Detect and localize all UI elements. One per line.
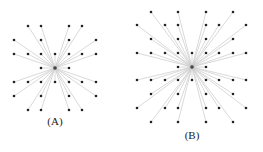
- star-graph-diagram: (A)(B): [0, 0, 263, 152]
- node: [81, 53, 84, 56]
- node: [40, 81, 43, 84]
- node: [150, 121, 153, 124]
- node: [95, 39, 98, 42]
- node: [95, 53, 98, 56]
- node: [205, 24, 208, 27]
- node: [81, 109, 84, 112]
- figure-a-caption: (A): [47, 115, 63, 128]
- node: [218, 24, 221, 27]
- node: [68, 53, 71, 56]
- node: [232, 11, 235, 14]
- node: [150, 38, 153, 41]
- node: [205, 66, 208, 69]
- node: [191, 79, 194, 82]
- node: [81, 25, 84, 28]
- node: [136, 52, 139, 55]
- node: [68, 39, 71, 42]
- node: [81, 81, 84, 84]
- node: [245, 52, 248, 55]
- edge: [14, 68, 55, 96]
- node: [177, 52, 180, 55]
- node: [40, 95, 43, 98]
- node: [150, 11, 153, 14]
- node: [164, 52, 167, 55]
- node: [205, 52, 208, 55]
- edge: [137, 53, 192, 67]
- node: [205, 38, 208, 41]
- node: [13, 39, 16, 42]
- node: [13, 95, 16, 98]
- edge: [137, 25, 192, 67]
- node: [177, 66, 180, 69]
- node: [95, 81, 98, 84]
- node: [164, 24, 167, 27]
- figure-a: (A): [13, 25, 98, 128]
- node: [177, 24, 180, 27]
- node: [245, 107, 248, 110]
- node: [177, 93, 180, 96]
- node: [68, 25, 71, 28]
- edge: [55, 26, 82, 68]
- node: [150, 52, 153, 55]
- node: [245, 79, 248, 82]
- node: [232, 38, 235, 41]
- node: [218, 107, 221, 110]
- node: [164, 79, 167, 82]
- node: [68, 67, 71, 70]
- edge: [28, 26, 55, 68]
- node: [95, 95, 98, 98]
- edge: [55, 40, 96, 68]
- node: [40, 109, 43, 112]
- node: [205, 79, 208, 82]
- node: [68, 95, 71, 98]
- node: [205, 107, 208, 110]
- node: [218, 52, 221, 55]
- edge: [165, 25, 192, 67]
- hub-node: [190, 65, 194, 69]
- node: [40, 67, 43, 70]
- node: [232, 79, 235, 82]
- edge: [151, 12, 192, 67]
- node: [150, 93, 153, 96]
- node: [27, 53, 30, 56]
- figure-b: (B): [136, 11, 248, 142]
- edge: [28, 68, 55, 110]
- node: [177, 38, 180, 41]
- node: [245, 24, 248, 27]
- node: [40, 39, 43, 42]
- node: [150, 79, 153, 82]
- node: [232, 52, 235, 55]
- node: [232, 93, 235, 96]
- node: [136, 107, 139, 110]
- node: [13, 81, 16, 84]
- node: [177, 107, 180, 110]
- node: [136, 24, 139, 27]
- edge: [55, 68, 96, 96]
- node: [205, 11, 208, 14]
- edge: [151, 67, 192, 80]
- node: [27, 109, 30, 112]
- edge: [192, 67, 233, 80]
- node: [136, 79, 139, 82]
- node: [40, 53, 43, 56]
- node: [54, 81, 57, 84]
- node: [177, 79, 180, 82]
- node: [54, 53, 57, 56]
- node: [177, 121, 180, 124]
- node: [191, 52, 194, 55]
- node: [205, 93, 208, 96]
- node: [177, 11, 180, 14]
- node: [27, 81, 30, 84]
- hub-node: [53, 66, 57, 70]
- node: [232, 121, 235, 124]
- figure-b-caption: (B): [185, 129, 200, 142]
- node: [40, 25, 43, 28]
- node: [13, 53, 16, 56]
- node: [218, 79, 221, 82]
- node: [68, 81, 71, 84]
- node: [68, 109, 71, 112]
- node: [205, 121, 208, 124]
- node: [164, 107, 167, 110]
- edge: [14, 40, 55, 68]
- node: [27, 25, 30, 28]
